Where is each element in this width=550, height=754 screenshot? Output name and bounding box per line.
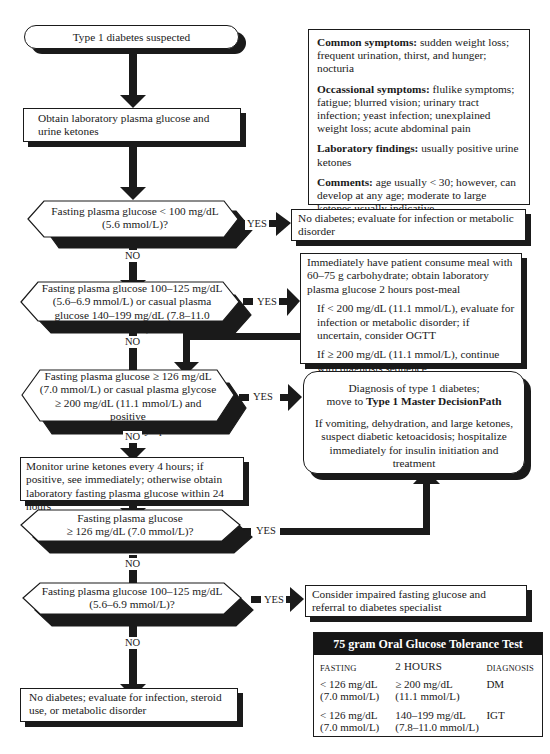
decision3-yes-label: YES [251, 391, 275, 403]
monitor-ketones-box: Monitor urine ketones every 4 hours; if … [20, 457, 244, 501]
occasional-symptoms: Occassional symptoms: flulike symptoms; … [317, 83, 521, 136]
master-decisionpath-link: Type 1 Master DecisionPath [366, 395, 501, 407]
table-row: < 126 mg/dL(7.0 mmol/L) 140–199 mg/dL(7.… [314, 709, 542, 740]
decision1-no-label: NO [123, 250, 142, 262]
decision-fpg-under-100: Fasting plasma glucose < 100 mg/dL (5.6 … [45, 205, 225, 232]
ogtt-title: 75 gram Oral Glucose Tolerance Test [314, 633, 542, 655]
decision5-no-label: NO [123, 637, 142, 649]
decision5-yes-label: YES [262, 594, 286, 606]
no-diabetes-end-box: No diabetes; evaluate for infection, ste… [20, 688, 238, 722]
start-terminator: Type 1 diabetes suspected [24, 25, 239, 49]
decision3-no-label: NO [123, 431, 142, 443]
impaired-fasting-glucose-box: Consider impaired fasting glucose and re… [305, 585, 527, 617]
common-symptoms: Common symptoms: sudden weight loss; fre… [317, 36, 521, 76]
decision1-yes-label: YES [245, 218, 269, 230]
header-2-hours: 2 HOURS [389, 655, 480, 678]
header-diagnosis: DIAGNOSIS [480, 655, 542, 678]
ogtt-grid: FASTING 2 HOURS DIAGNOSIS < 126 mg/dL(7.… [314, 655, 542, 740]
header-fasting: FASTING [314, 655, 389, 678]
start-text: Type 1 diabetes suspected [73, 31, 190, 43]
decision2-yes-label: YES [255, 296, 279, 308]
diagnosis-box: Diagnosis of type 1 diabetes; move to Ty… [303, 371, 525, 474]
decision4-yes-label: YES [254, 525, 278, 537]
decision-fpg-over-126: Fasting plasma glucose ≥ 126 mg/dL (7.0 … [38, 512, 222, 539]
decision-fpg-100-125: Fasting plasma glucose 100–125 mg/dL (5.… [38, 282, 226, 336]
ogtt-table: 75 gram Oral Glucose Tolerance Test FAST… [313, 632, 543, 737]
decision-fpg-over-126-ketones: Fasting plasma glucose ≥ 126 mg/dL (7.0 … [38, 370, 218, 437]
decision2-no-label: NO [123, 336, 142, 348]
meal-test-box: Immediately have patient consume meal wi… [300, 253, 522, 364]
laboratory-findings: Laboratory findings: usually positive ur… [317, 142, 521, 168]
decision4-no-label: NO [123, 558, 142, 570]
table-row: < 126 mg/dL(7.0 mmol/L) ≥ 200 mg/dL(11.1… [314, 678, 542, 709]
no-diabetes-box: No diabetes; evaluate for infection or m… [291, 209, 526, 241]
obtain-labs-box: Obtain laboratory plasma glucose and uri… [23, 108, 241, 142]
symptoms-info-box: Common symptoms: sudden weight loss; fre… [308, 29, 530, 205]
decision-fpg-100-125-followup: Fasting plasma glucose 100–125 mg/dL (5.… [40, 585, 224, 612]
